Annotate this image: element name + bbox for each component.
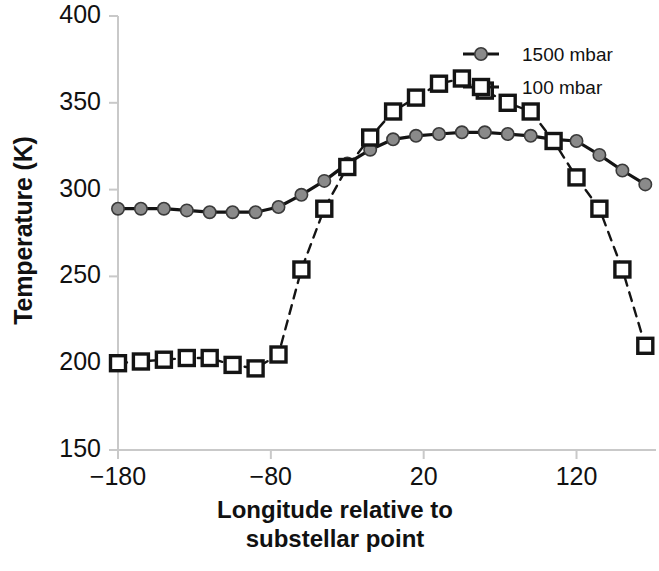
data-point-circle (112, 203, 124, 215)
data-point-circle (593, 149, 605, 161)
x-tick-label: 120 (522, 462, 632, 491)
legend-marker-square (474, 80, 489, 95)
data-point-square (248, 361, 263, 376)
y-tick-label: 350 (31, 87, 101, 116)
data-point-circle (135, 203, 147, 215)
data-point-square (615, 262, 630, 277)
data-point-square (133, 354, 148, 369)
data-point-square (202, 351, 217, 366)
data-point-circle (318, 175, 330, 187)
series-line-1500-mbar (118, 132, 645, 212)
y-tick-label: 200 (31, 347, 101, 376)
data-point-circle (158, 203, 170, 215)
data-point-square (386, 104, 401, 119)
series-layer (111, 71, 653, 376)
x-tick-label: 20 (369, 462, 479, 491)
data-point-circle (226, 206, 238, 218)
y-tick-label: 400 (31, 0, 101, 29)
data-point-square (523, 104, 538, 119)
data-point-square (569, 170, 584, 185)
data-point-square (592, 201, 607, 216)
y-tick-label: 250 (31, 260, 101, 289)
legend-marker-circle (475, 48, 487, 60)
data-point-circle (295, 189, 307, 201)
data-point-circle (479, 126, 491, 138)
y-tick-label: 300 (31, 174, 101, 203)
data-point-square (179, 351, 194, 366)
data-point-circle (525, 130, 537, 142)
data-point-square (363, 130, 378, 145)
data-point-circle (181, 204, 193, 216)
data-point-circle (570, 135, 582, 147)
data-point-circle (616, 164, 628, 176)
data-point-square (546, 134, 561, 149)
data-point-circle (456, 126, 468, 138)
data-point-circle (410, 130, 422, 142)
data-point-square (409, 90, 424, 105)
data-point-circle (272, 201, 284, 213)
data-point-circle (204, 206, 216, 218)
x-tick-label: −80 (216, 462, 326, 491)
legend-label-100-mbar: 100 mbar (522, 77, 602, 99)
data-point-square (156, 352, 171, 367)
x-tick-label: −180 (63, 462, 173, 491)
data-point-square (500, 95, 515, 110)
data-point-circle (249, 206, 261, 218)
data-point-square (638, 338, 653, 353)
data-point-circle (387, 133, 399, 145)
data-point-square (432, 76, 447, 91)
data-point-square (111, 356, 126, 371)
chart-figure: Temperature (K) Longitude relative to su… (0, 0, 659, 571)
data-point-circle (502, 128, 514, 140)
data-point-square (317, 201, 332, 216)
data-point-square (340, 160, 355, 175)
data-point-square (454, 71, 469, 86)
data-point-square (225, 357, 240, 372)
data-point-circle (639, 178, 651, 190)
legend-label-1500-mbar: 1500 mbar (522, 44, 613, 66)
data-point-square (294, 262, 309, 277)
data-point-circle (433, 128, 445, 140)
data-point-square (271, 347, 286, 362)
series-line-100-mbar (118, 79, 645, 369)
y-tick-label: 150 (31, 434, 101, 463)
